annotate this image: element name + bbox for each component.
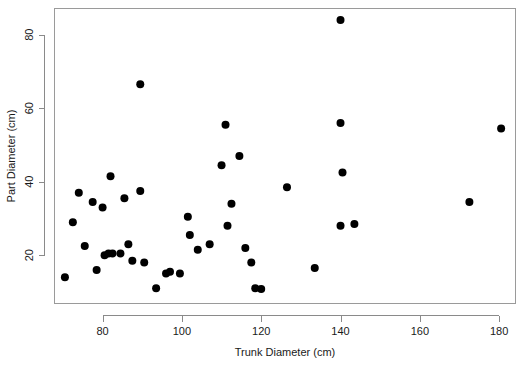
data-point bbox=[89, 198, 97, 206]
x-axis: 80100120140160180 bbox=[96, 316, 508, 337]
data-point bbox=[124, 240, 132, 248]
data-point bbox=[337, 222, 345, 230]
data-point bbox=[136, 187, 144, 195]
data-point bbox=[186, 231, 194, 239]
y-tick-label: 80 bbox=[23, 29, 35, 41]
data-point bbox=[350, 220, 358, 228]
x-axis-title: Trunk Diameter (cm) bbox=[235, 346, 335, 358]
data-point bbox=[497, 124, 505, 132]
data-point bbox=[283, 183, 291, 191]
data-point bbox=[140, 259, 148, 267]
y-axis: 20406080 bbox=[23, 29, 44, 262]
data-point bbox=[81, 242, 89, 250]
data-point bbox=[75, 189, 83, 197]
data-point bbox=[120, 194, 128, 202]
data-point bbox=[93, 266, 101, 274]
y-tick-label: 40 bbox=[23, 176, 35, 188]
data-point bbox=[257, 285, 265, 293]
y-tick-label: 20 bbox=[23, 249, 35, 261]
data-point bbox=[339, 169, 347, 177]
data-point bbox=[227, 200, 235, 208]
y-axis-title: Part Diameter (cm) bbox=[5, 110, 17, 203]
data-point bbox=[194, 246, 202, 254]
data-point bbox=[116, 249, 124, 257]
data-point bbox=[107, 172, 115, 180]
data-point bbox=[337, 16, 345, 24]
data-point bbox=[337, 119, 345, 127]
y-tick-label: 60 bbox=[23, 102, 35, 114]
x-tick-label: 120 bbox=[252, 325, 270, 337]
x-tick-label: 140 bbox=[331, 325, 349, 337]
data-point bbox=[128, 257, 136, 265]
data-point bbox=[61, 273, 69, 281]
data-point bbox=[152, 284, 160, 292]
data-point bbox=[247, 259, 255, 267]
data-point bbox=[176, 270, 184, 278]
data-point bbox=[184, 213, 192, 221]
data-point bbox=[69, 218, 77, 226]
scatter-plot-figure: 20406080 80100120140160180 Trunk Diamete… bbox=[0, 0, 529, 373]
data-point bbox=[222, 121, 230, 129]
data-points-layer bbox=[61, 16, 505, 293]
data-point bbox=[218, 161, 226, 169]
data-point bbox=[311, 264, 319, 272]
x-tick-label: 160 bbox=[411, 325, 429, 337]
data-point bbox=[99, 203, 107, 211]
data-point bbox=[136, 80, 144, 88]
plot-canvas: 20406080 80100120140160180 Trunk Diamete… bbox=[0, 0, 529, 373]
data-point bbox=[224, 222, 232, 230]
data-point bbox=[109, 249, 117, 257]
plot-frame bbox=[55, 9, 516, 304]
x-tick-label: 100 bbox=[173, 325, 191, 337]
data-point bbox=[465, 198, 473, 206]
data-point bbox=[241, 244, 249, 252]
x-tick-label: 180 bbox=[490, 325, 508, 337]
data-point bbox=[235, 152, 243, 160]
data-point bbox=[206, 240, 214, 248]
data-point bbox=[162, 270, 170, 278]
x-tick-label: 80 bbox=[96, 325, 108, 337]
